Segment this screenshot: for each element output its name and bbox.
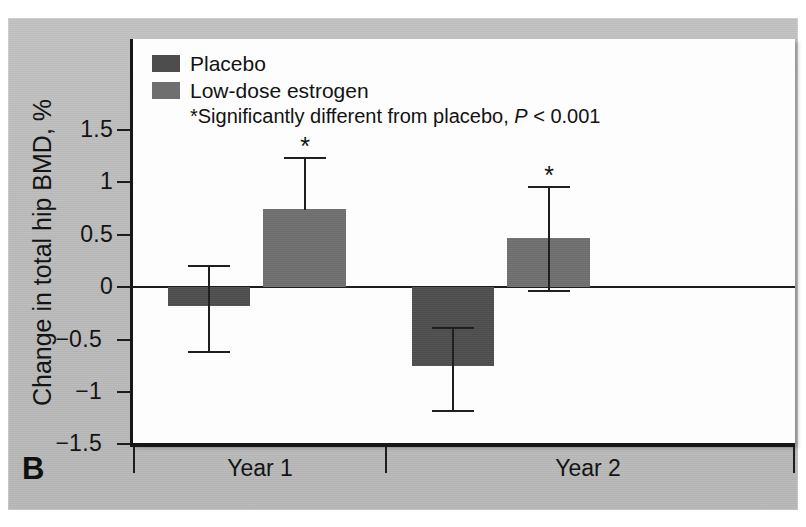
y-tick-mark-1 xyxy=(117,129,130,131)
significance-note-prefix: *Significantly different from placebo, xyxy=(190,105,514,127)
x-tick-mark-left xyxy=(133,447,135,473)
legend: Placebo Low-dose estrogen *Significantly… xyxy=(152,50,622,128)
x-tick-label-year-2: Year 2 xyxy=(508,455,668,482)
y-tick-mark-7 xyxy=(117,443,130,445)
y-tick-mark-6 xyxy=(117,391,130,393)
significance-note: *Significantly different from placebo, P… xyxy=(190,105,622,128)
y-tick-label-4: 0 xyxy=(55,275,113,298)
panel-letter: B xyxy=(22,451,44,487)
y-axis-title: Change in total hip BMD, % xyxy=(28,63,57,443)
significance-star-year-1: * xyxy=(295,134,315,159)
y-tick-mark-2 xyxy=(117,181,130,183)
y-tick-label-3: 0.5 xyxy=(55,223,113,246)
bar-low-dose-estrogen-year-1 xyxy=(263,209,346,287)
x-tick-mark-middle xyxy=(385,447,387,473)
y-tick-mark-5 xyxy=(117,339,130,341)
legend-swatch-low-dose-estrogen xyxy=(152,82,180,99)
legend-swatch-placebo xyxy=(152,55,180,72)
significance-star-year-2: * xyxy=(539,163,559,188)
significance-note-suffix: < 0.001 xyxy=(528,105,601,127)
figure-panel-b: 1.5 1 0.5 0 −0.5 −1 −1.5 Change in total… xyxy=(0,0,806,527)
y-axis-line xyxy=(130,39,133,447)
x-tick-mark-right xyxy=(793,447,795,473)
y-tick-mark-3 xyxy=(117,234,130,236)
legend-label-placebo: Placebo xyxy=(190,52,266,76)
y-tick-mark-4 xyxy=(117,286,130,288)
legend-item-placebo: Placebo xyxy=(152,50,622,77)
legend-item-low-dose-estrogen: Low-dose estrogen xyxy=(152,77,622,104)
y-tick-label-1: 1.5 xyxy=(55,118,113,141)
legend-label-low-dose-estrogen: Low-dose estrogen xyxy=(190,79,369,103)
y-tick-label-2: 1 xyxy=(55,170,113,193)
x-axis-line xyxy=(130,443,795,447)
x-tick-label-year-1: Year 1 xyxy=(180,455,340,482)
significance-note-p-italic: P xyxy=(514,105,527,127)
